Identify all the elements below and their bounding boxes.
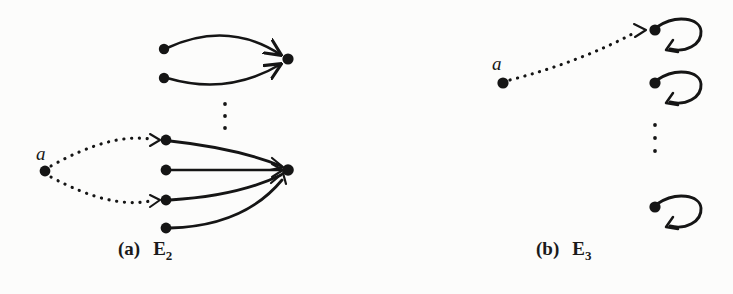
self-loop-node-3 — [649, 196, 701, 229]
caption-name-b: E — [572, 238, 585, 259]
self-loop-node-1 — [649, 19, 701, 52]
arrowhead-a-to-lower3 — [150, 195, 160, 207]
caption-letter-a: (a) — [118, 238, 140, 259]
node-lower-cluster-1 — [161, 135, 172, 146]
node-lower-cluster-sink — [282, 164, 294, 176]
caption-subscript-a: 2 — [166, 248, 173, 263]
node-label-a-panel-a: a — [36, 143, 46, 165]
node-loop-3 — [649, 201, 660, 212]
node-source-a-panel-a — [40, 166, 51, 177]
panel-a-top-cluster — [159, 36, 294, 85]
node-label-a-panel-b: a — [492, 53, 502, 75]
node-top-cluster-sink — [282, 53, 293, 64]
panel-b-graph — [497, 19, 701, 229]
arrowhead-a-to-lower1 — [150, 134, 160, 146]
node-loop-2 — [649, 77, 660, 88]
self-loop-arc-1 — [657, 19, 701, 50]
self-loop-arc-3 — [657, 196, 701, 227]
figure-container: a a (a)E2 (b)E3 — [0, 0, 733, 294]
edge-top-upper-to-sink — [167, 36, 281, 55]
caption-panel-a: (a)E2 — [118, 238, 172, 264]
self-loop-node-2 — [649, 72, 701, 105]
panel-b-dotted-edge — [497, 24, 646, 89]
node-top-cluster-source-lower — [159, 73, 169, 83]
arrowhead-a-to-loop1 — [634, 24, 646, 37]
node-source-a-panel-b — [497, 77, 508, 88]
node-top-cluster-source-upper — [159, 44, 169, 54]
panel-a-vertical-ellipsis — [223, 102, 227, 130]
caption-letter-b: (b) — [536, 238, 559, 259]
dotted-edge-a-to-loop1 — [510, 32, 636, 80]
figure-graphics — [0, 0, 733, 294]
panel-a-dotted-edges — [40, 134, 160, 207]
node-lower-cluster-2 — [161, 165, 172, 176]
panel-a-lower-cluster — [161, 135, 294, 234]
edge-lower4-to-sink — [170, 180, 282, 228]
panel-b-vertical-ellipsis — [653, 123, 657, 153]
node-loop-1 — [649, 24, 660, 35]
node-lower-cluster-4 — [161, 223, 172, 234]
self-loop-arc-2 — [657, 72, 701, 103]
edge-top-lower-to-sink — [167, 64, 281, 84]
caption-subscript-b: 3 — [585, 248, 592, 263]
panel-a-graph — [40, 36, 294, 234]
edge-lower1-to-sink — [170, 141, 281, 166]
dotted-edge-a-to-lower1 — [51, 138, 150, 166]
caption-name-a: E — [153, 238, 166, 259]
node-lower-cluster-3 — [161, 195, 172, 206]
caption-panel-b: (b)E3 — [536, 238, 591, 264]
dotted-edge-a-to-lower3 — [51, 177, 150, 203]
